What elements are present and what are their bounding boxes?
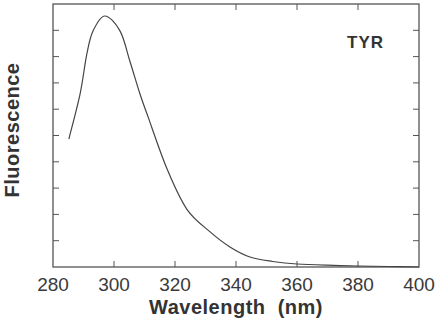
x-tick-label: 280 bbox=[37, 274, 69, 295]
x-axis-title: Wavelength (nm) bbox=[149, 296, 323, 318]
series-annotation: TYR bbox=[347, 33, 384, 52]
fluorescence-chart: 280300320340360380400 TYR Wavelength (nm… bbox=[0, 0, 435, 323]
y-axis-ticks bbox=[53, 30, 419, 240]
x-tick-label: 360 bbox=[281, 274, 313, 295]
x-tick-label: 300 bbox=[98, 274, 130, 295]
x-tick-label: 340 bbox=[220, 274, 252, 295]
x-axis-ticks bbox=[114, 4, 358, 267]
x-tick-label: 320 bbox=[159, 274, 191, 295]
fluorescence-curve bbox=[69, 16, 419, 267]
x-tick-label: 400 bbox=[403, 274, 435, 295]
x-axis-tick-labels: 280300320340360380400 bbox=[37, 274, 435, 295]
x-tick-label: 380 bbox=[342, 274, 374, 295]
y-axis-title: Fluorescence bbox=[1, 63, 23, 198]
